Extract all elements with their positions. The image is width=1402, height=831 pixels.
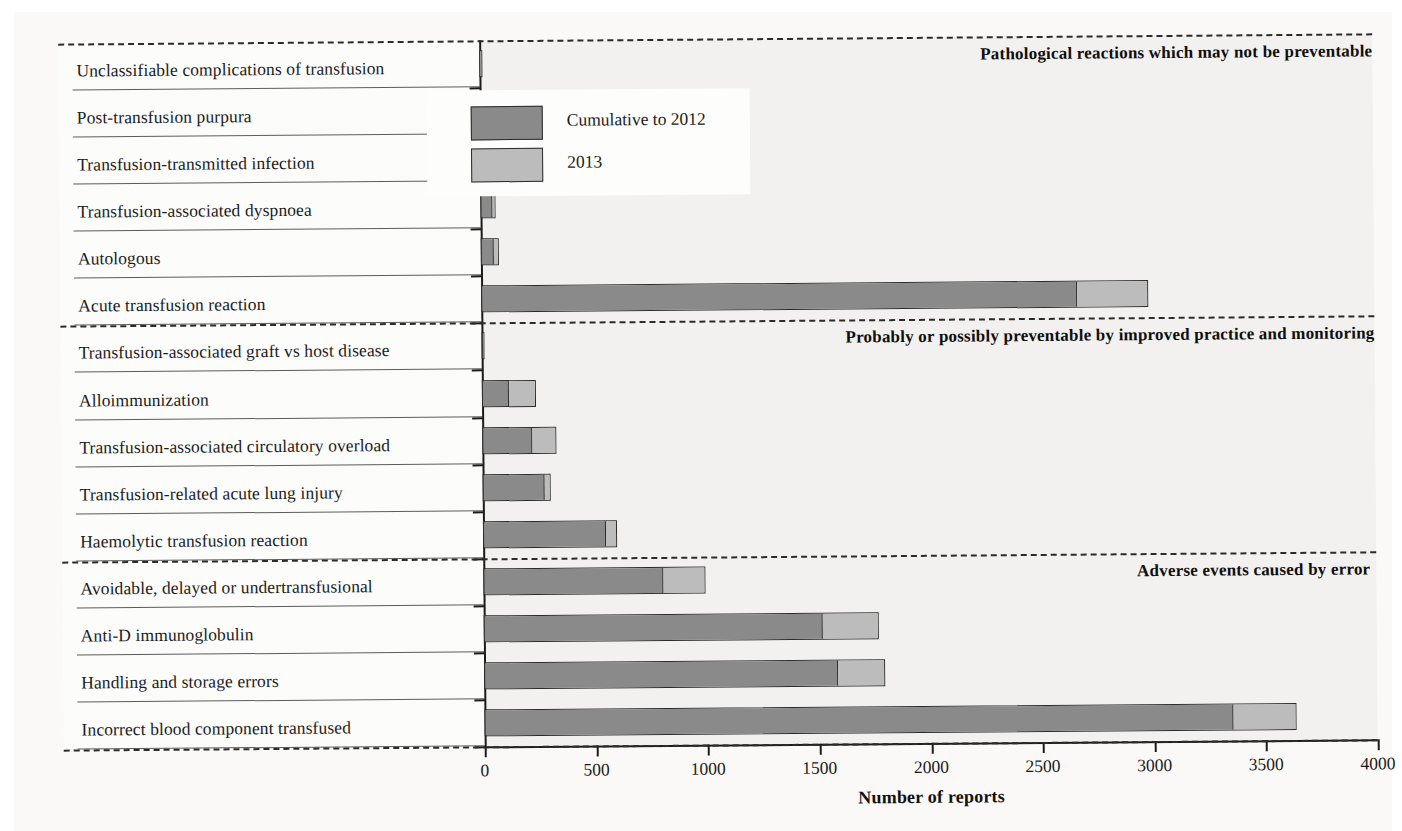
bar-segment-2013 (822, 613, 878, 638)
y-axis-tick (471, 229, 482, 231)
bar-segment-cumulative-to-2012 (483, 428, 532, 453)
bar-segment-2013 (494, 240, 498, 265)
y-axis-tick (473, 511, 484, 513)
category-row: Haemolytic transfusion reaction (62, 511, 483, 561)
bar-segment-cumulative-to-2012 (485, 704, 1233, 735)
stacked-bar-chart: Unclassifiable complications of transfus… (14, 11, 1392, 812)
category-label: Transfusion-transmitted infection (77, 153, 315, 176)
category-row: Post-transfusion purpura (59, 87, 480, 137)
x-axis-tick-label: 3000 (1137, 755, 1172, 776)
y-axis-tick (474, 652, 485, 654)
bar-segment-2013 (1077, 281, 1146, 307)
bar-segment-2013 (532, 427, 555, 452)
x-axis-tick-label: 500 (583, 759, 609, 780)
bar-10 (483, 473, 551, 501)
bar-segment-cumulative-to-2012 (485, 613, 823, 641)
y-axis-tick (472, 417, 483, 419)
x-axis-tick-label: 0 (480, 760, 489, 781)
category-row: Transfusion-related acute lung injury (61, 464, 482, 514)
x-axis-tick-label: 1000 (691, 758, 726, 779)
scanned-page: Unclassifiable complications of transfus… (0, 0, 1402, 831)
bar-9 (482, 426, 556, 454)
category-row: Handling and storage errors (63, 652, 484, 702)
bar-segment-cumulative-to-2012 (482, 282, 1078, 312)
y-axis-tick (470, 87, 481, 89)
legend-swatch-cumulative-to-2012 (471, 106, 543, 141)
bar-segment-2013 (544, 474, 550, 499)
category-row: Transfusion-transmitted infection (59, 134, 480, 184)
category-row: Transfusion-associated dyspnoea (59, 182, 480, 232)
bar-6 (481, 280, 1148, 312)
y-axis-tick (474, 699, 485, 701)
bar-segment-cumulative-to-2012 (483, 381, 509, 406)
x-axis-tick-label: 2000 (914, 757, 949, 778)
category-label: Autologous (78, 248, 161, 270)
bars-layer (14, 11, 1386, 22)
category-label: Transfusion-associated dyspnoea (77, 200, 311, 223)
x-axis-title: Number of reports (485, 783, 1378, 811)
legend-label-2013: 2013 (567, 151, 602, 172)
bar-5 (481, 238, 499, 265)
category-row: Autologous (60, 229, 481, 279)
bar-8 (482, 379, 536, 406)
x-axis-tick (1378, 739, 1380, 750)
x-axis-tick-label: 2500 (1025, 756, 1060, 777)
group-separators-layer (14, 11, 1386, 22)
category-label: Handling and storage errors (81, 671, 279, 694)
page-edge-top (0, 0, 1402, 12)
bar-segment-cumulative-to-2012 (484, 521, 606, 547)
category-label: Incorrect blood component transfused (81, 717, 351, 740)
y-axis-tick (472, 370, 483, 372)
bar-14 (484, 659, 885, 689)
category-label: Transfusion-associated circulatory overl… (79, 435, 390, 458)
category-row: Alloimmunization (61, 370, 482, 420)
y-axis-tick (471, 276, 482, 278)
category-row: Anti-D immunoglobulin (63, 605, 484, 655)
group-annotations-layer: Pathological reactions which may not be … (14, 11, 1386, 22)
y-axis-tick (474, 605, 485, 607)
chart-legend: Cumulative to 2012 2013 (427, 88, 751, 197)
bar-segment-2013 (1234, 704, 1295, 729)
bar-segment-cumulative-to-2012 (482, 240, 494, 265)
category-row: Acute transfusion reaction (60, 276, 481, 326)
legend-swatch-2013 (471, 148, 543, 183)
category-label-column: Unclassifiable complications of transfus… (58, 40, 485, 749)
category-row: Incorrect blood component transfused (63, 699, 484, 749)
category-label: Haemolytic transfusion reaction (80, 529, 308, 552)
axis-ticks-layer: 05001000150020002500300035004000 (14, 11, 1386, 22)
bar-segment-2013 (606, 521, 616, 546)
category-label: Alloimmunization (79, 389, 209, 411)
x-axis-tick-label: 1500 (802, 758, 837, 779)
bar-13 (484, 612, 880, 642)
category-label: Anti-D immunoglobulin (81, 624, 254, 646)
bar-segment-cumulative-to-2012 (485, 660, 838, 688)
y-axis-tick (472, 464, 483, 466)
bar-segment-cumulative-to-2012 (484, 474, 545, 499)
category-label: Transfusion-related acute lung injury (80, 482, 343, 505)
bar-11 (483, 520, 617, 548)
x-axis-tick-label: 3500 (1249, 754, 1284, 775)
category-row: Transfusion-associated circulatory overl… (61, 417, 482, 467)
bar-segment-2013 (838, 660, 884, 685)
legend-label-cumulative-to-2012: Cumulative to 2012 (567, 109, 706, 131)
page-edge-right (1392, 0, 1402, 831)
x-axis-tick-label: 4000 (1360, 753, 1395, 774)
category-label: Acute transfusion reaction (78, 294, 265, 316)
page-edge-left (0, 0, 14, 831)
bar-segment-2013 (509, 380, 535, 405)
category-label: Post-transfusion purpura (77, 106, 252, 128)
